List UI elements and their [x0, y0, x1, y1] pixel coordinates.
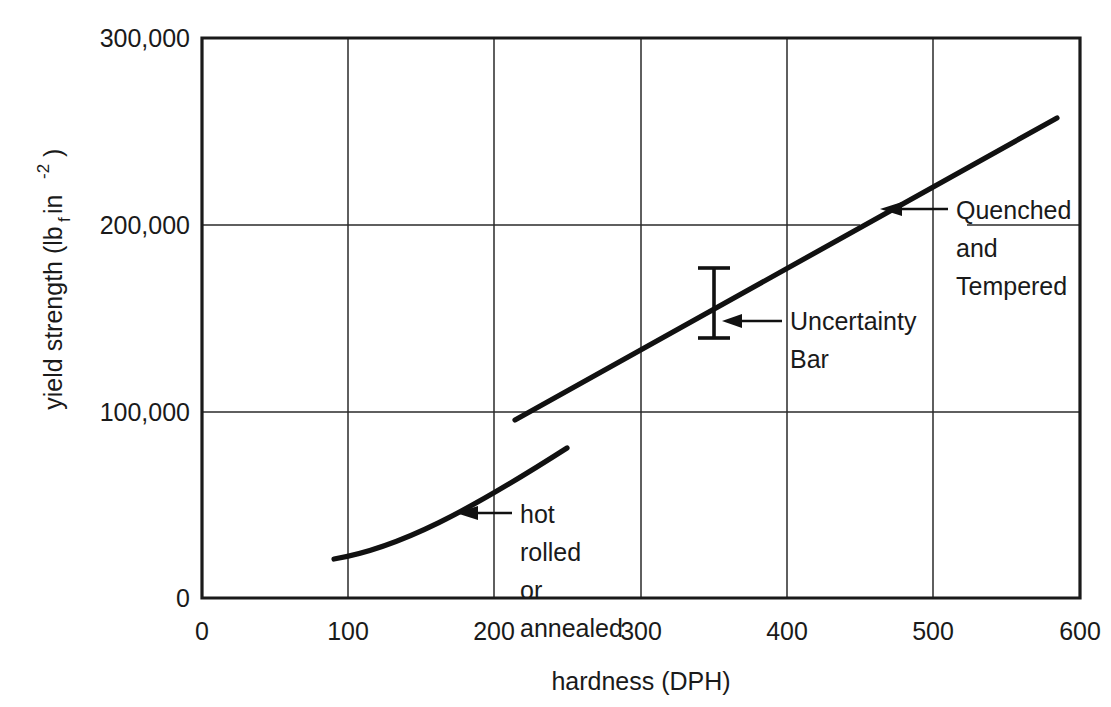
- hot-rolled-label-line2: rolled: [520, 538, 581, 566]
- annotation-quenched-tempered: Quenched and Tempered: [880, 196, 1071, 300]
- x-tick-label-200: 200: [473, 617, 515, 645]
- y-axis-title-mid: in: [39, 195, 67, 214]
- chart-canvas: Uncertainty Bar Quenched and Tempered ho…: [0, 0, 1111, 707]
- series-quenched-and-tempered: [515, 118, 1057, 420]
- x-tick-label-500: 500: [912, 617, 954, 645]
- uncertainty-label-line2: Bar: [790, 345, 829, 373]
- x-tick-label-600: 600: [1059, 617, 1101, 645]
- x-axis-tick-labels: 0 100 200 300 400 500 600: [195, 617, 1101, 645]
- y-axis-title-group: yield strength (lb f in -2 ): [34, 149, 74, 410]
- quenched-label-line2: and: [956, 234, 998, 262]
- y-tick-label-0: 0: [176, 584, 190, 612]
- y-tick-label-300000: 300,000: [100, 24, 190, 52]
- chart-figure: Uncertainty Bar Quenched and Tempered ho…: [0, 0, 1111, 707]
- uncertainty-arrow-icon: [722, 314, 742, 328]
- y-tick-label-200000: 200,000: [100, 211, 190, 239]
- hot-rolled-label-line3: or: [520, 576, 542, 604]
- x-tick-label-400: 400: [766, 617, 808, 645]
- y-axis-title-subscript-f: f: [55, 217, 74, 222]
- x-axis-title: hardness (DPH): [551, 667, 730, 695]
- data-series-group: [334, 118, 1057, 559]
- x-tick-label-100: 100: [327, 617, 369, 645]
- x-tick-label-0: 0: [195, 617, 209, 645]
- quenched-label-line3: Tempered: [956, 272, 1067, 300]
- hot-rolled-label-line4: annealed: [520, 614, 623, 642]
- quenched-label-line1: Quenched: [956, 196, 1071, 224]
- y-axis-title-main: yield strength (lb: [39, 226, 67, 409]
- y-axis-title-superscript-exponent: -2: [34, 164, 53, 179]
- y-axis-tick-labels: 300,000 200,000 100,000 0: [100, 24, 190, 612]
- x-tick-label-300: 300: [620, 617, 662, 645]
- uncertainty-label-line1: Uncertainty: [790, 307, 917, 335]
- gridlines: [202, 38, 1080, 598]
- annotation-uncertainty: Uncertainty Bar: [722, 307, 917, 373]
- hot-rolled-label-line1: hot: [520, 500, 555, 528]
- x-axis-title-group: hardness (DPH): [551, 667, 730, 695]
- y-axis-title-tail: ): [39, 149, 67, 157]
- y-tick-label-100000: 100,000: [100, 398, 190, 426]
